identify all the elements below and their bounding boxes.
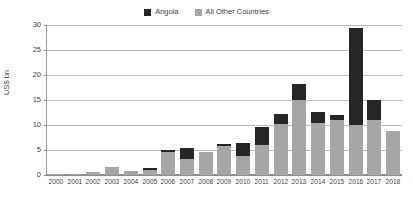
bar-segment-all-other-countries	[330, 120, 344, 175]
bar-group	[86, 25, 100, 175]
bar-group	[199, 25, 213, 175]
x-tick-label: 2010	[236, 178, 249, 190]
bar-group	[367, 25, 381, 175]
bar-segment-all-other-countries	[274, 124, 288, 176]
x-tick-label: 2017	[367, 178, 380, 190]
x-tick-label: 2014	[311, 178, 324, 190]
bar-group	[161, 25, 175, 175]
stacked-bar-chart: Angola All Other Countries US$ bn 051015…	[0, 0, 413, 208]
x-tick-label: 2013	[292, 178, 305, 190]
legend-item-angola: Angola	[144, 8, 178, 16]
x-tick-label: 2002	[86, 178, 99, 190]
x-tick-label: 2009	[217, 178, 230, 190]
y-tick-label: 0	[11, 171, 41, 179]
bar-group	[105, 25, 119, 175]
bar-group	[143, 25, 157, 175]
bar-segment-all-other-countries	[180, 159, 194, 176]
x-tick-label: 2008	[198, 178, 211, 190]
bar-segment-all-other-countries	[349, 125, 363, 175]
bar-segment-all-other-countries	[161, 152, 175, 176]
bar-segment-all-other-countries	[49, 174, 63, 175]
bar-segment-all-other-countries	[199, 152, 213, 175]
bar-segment-all-other-countries	[367, 120, 381, 175]
y-tick-label: 15	[11, 96, 41, 104]
bar-segment-angola	[255, 127, 269, 145]
bar-group	[124, 25, 138, 175]
x-tick-label: 2012	[273, 178, 286, 190]
x-tick-label: 2005	[142, 178, 155, 190]
bars-layer	[47, 25, 402, 175]
x-tick-label: 2015	[329, 178, 342, 190]
y-axis-title: US$ bn	[3, 70, 11, 95]
bar-segment-all-other-countries	[68, 174, 82, 175]
chart-legend: Angola All Other Countries	[0, 6, 413, 18]
bar-segment-all-other-countries	[386, 131, 400, 176]
y-tick-label: 30	[11, 21, 41, 29]
legend-label-angola: Angola	[155, 8, 178, 16]
bar-segment-angola	[349, 28, 363, 125]
plot-area	[46, 25, 401, 175]
bar-segment-all-other-countries	[217, 146, 231, 175]
y-tick-label: 5	[11, 146, 41, 154]
bar-segment-all-other-countries	[311, 123, 325, 176]
bar-group	[49, 25, 63, 175]
bar-segment-all-other-countries	[292, 100, 306, 175]
y-tick-label: 10	[11, 121, 41, 129]
x-tick-label: 2001	[67, 178, 80, 190]
bar-segment-angola	[292, 84, 306, 100]
bar-segment-angola	[180, 148, 194, 159]
bar-segment-angola	[236, 143, 250, 156]
bar-segment-all-other-countries	[143, 170, 157, 176]
bar-segment-angola	[367, 100, 381, 120]
y-tick-label: 20	[11, 71, 41, 79]
x-tick-label: 2003	[105, 178, 118, 190]
x-tick-label: 2004	[123, 178, 136, 190]
bar-segment-all-other-countries	[236, 156, 250, 176]
bar-segment-all-other-countries	[255, 145, 269, 176]
x-tick-label: 2018	[385, 178, 398, 190]
x-tick-label: 2011	[254, 178, 267, 190]
bar-segment-all-other-countries	[86, 172, 100, 176]
legend-label-all-other-countries: All Other Countries	[206, 8, 269, 16]
y-tick-label: 25	[11, 46, 41, 54]
legend-swatch-angola	[144, 9, 151, 16]
bar-group	[292, 25, 306, 175]
legend-item-all-other-countries: All Other Countries	[195, 8, 269, 16]
bar-group	[236, 25, 250, 175]
bar-group	[180, 25, 194, 175]
legend-swatch-all-other-countries	[195, 9, 202, 16]
bar-segment-all-other-countries	[105, 167, 119, 176]
x-tick-label: 2016	[348, 178, 361, 190]
bar-segment-all-other-countries	[124, 171, 138, 176]
x-tick-label: 2006	[161, 178, 174, 190]
bar-group	[330, 25, 344, 175]
bar-group	[217, 25, 231, 175]
x-tick-label: 2000	[49, 178, 62, 190]
bar-group	[386, 25, 400, 175]
bar-segment-angola	[311, 112, 325, 123]
bar-group	[311, 25, 325, 175]
bar-group	[274, 25, 288, 175]
bar-group	[255, 25, 269, 175]
x-axis-tick-labels: 2000200120022003200420052006200720082009…	[46, 178, 401, 190]
bar-segment-angola	[274, 114, 288, 124]
x-tick-label: 2007	[180, 178, 193, 190]
bar-group	[68, 25, 82, 175]
bar-group	[349, 25, 363, 175]
